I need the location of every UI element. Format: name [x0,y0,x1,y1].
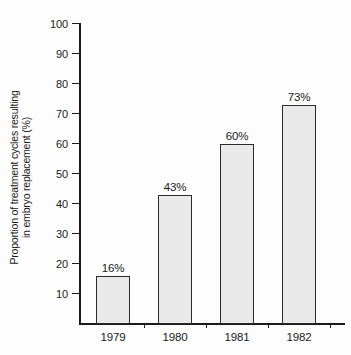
bar-group-1980: 43% [158,195,192,324]
bar-chart-figure: Proportion of treatment cycles resulting… [0,0,351,355]
x-category-label-1979: 1979 [101,331,126,343]
y-tick-50: 50 [72,173,79,174]
y-tick-60: 60 [72,143,79,144]
x-tick-3 [268,323,269,328]
y-tick-label-10: 10 [56,288,68,300]
y-tick-10: 10 [72,293,79,294]
x-tick-4 [330,323,331,328]
x-tick-2 [206,323,207,328]
bar-value-1981: 60% [226,130,248,142]
bar-group-1981: 60% [220,144,254,324]
bar-rect-1980[interactable] [158,195,192,324]
y-tick-80: 80 [72,83,79,84]
y-tick-20: 20 [72,263,79,264]
y-tick-label-100: 100 [50,18,68,30]
y-tick-label-30: 30 [56,228,68,240]
x-category-label-1980: 1980 [163,331,188,343]
bar-rect-1982[interactable] [282,105,316,324]
y-tick-40: 40 [72,203,79,204]
y-tick-label-20: 20 [56,258,68,270]
bar-group-1979: 16% [96,276,130,324]
plot-area: 10 20 30 40 50 60 70 80 90 100 16% [79,20,345,326]
y-tick-label-70: 70 [56,108,68,120]
bar-value-1982: 73% [288,91,310,103]
x-category-label-1981: 1981 [225,331,250,343]
y-axis-title-line-2: in embryo replacement (%) [20,117,32,238]
y-tick-label-60: 60 [56,138,68,150]
y-tick-label-50: 50 [56,168,68,180]
y-tick-90: 90 [72,53,79,54]
bar-value-1979: 16% [102,262,124,274]
y-axis-line [79,23,81,324]
y-tick-30: 30 [72,233,79,234]
y-tick-100: 100 [72,23,79,24]
bar-value-1980: 43% [164,181,186,193]
bar-rect-1981[interactable] [220,144,254,324]
bar-rect-1979[interactable] [96,276,130,324]
y-axis-title: Proportion of treatment cycles resulting… [0,0,40,355]
bar-group-1982: 73% [282,105,316,324]
y-tick-label-90: 90 [56,48,68,60]
y-tick-70: 70 [72,113,79,114]
y-axis-title-line-1: Proportion of treatment cycles resulting [8,90,20,264]
x-category-label-1982: 1982 [287,331,312,343]
x-tick-1 [144,323,145,328]
y-tick-label-40: 40 [56,198,68,210]
y-tick-label-80: 80 [56,78,68,90]
